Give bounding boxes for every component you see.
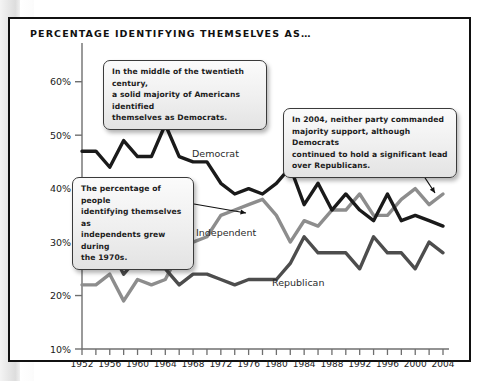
annotation-line: The percentage of people [81, 183, 186, 206]
chart-page: PERCENTAGE IDENTIFYING THEMSELVES AS… 10… [0, 0, 488, 381]
x-axis-tick-label: 1992 [348, 359, 371, 369]
x-axis-tick-label: 2000 [404, 359, 427, 369]
annotation-line: In the middle of the twentieth century, [112, 66, 259, 89]
x-axis-tick-label: 2004 [432, 359, 455, 369]
annotation-line: the 1970s. [81, 252, 186, 264]
y-axis-tick-label: 20% [50, 290, 71, 301]
x-axis-tick-label: 1956 [98, 359, 121, 369]
x-axis-tick-label: 1972 [209, 359, 232, 369]
x-axis-tick-label: 1960 [126, 359, 149, 369]
y-axis-tick-label: 30% [50, 237, 71, 248]
series-label-republican: Republican [272, 277, 324, 288]
leader-independents-arrowhead [240, 210, 246, 215]
annotation-line: majority support, although Democrats [292, 126, 449, 149]
x-axis-tick-label: 1976 [237, 359, 260, 369]
annotation-line: continued to hold a significant lead [292, 149, 449, 161]
leader-2004-arrowhead [430, 187, 435, 193]
x-axis-tick-label: 1984 [293, 359, 316, 369]
annotation-line: independents grew during [81, 229, 186, 252]
annotation-line: a solid majority of Americans identified [112, 89, 259, 112]
x-axis-tick-label: 1980 [265, 359, 288, 369]
y-axis-tick-label: 60% [50, 76, 71, 87]
series-label-independent: Independent [196, 227, 256, 238]
annotation-line: In 2004, neither party commanded [292, 114, 449, 126]
annotation-line: over Republicans. [292, 160, 449, 172]
y-axis-tick-label: 10% [50, 344, 71, 355]
y-axis-tick-label: 50% [50, 130, 71, 141]
annotation-callout-2004: In 2004, neither party commandedmajority… [283, 108, 457, 178]
x-axis-tick-label: 1988 [320, 359, 343, 369]
x-axis-tick-label: 1968 [182, 359, 205, 369]
x-axis-tick-label: 1996 [376, 359, 399, 369]
annotation-line: themselves as Democrats. [112, 112, 259, 124]
x-axis-tick-label: 1964 [154, 359, 177, 369]
annotation-line: identifying themselves as [81, 206, 186, 229]
annotation-callout-democrats: In the middle of the twentieth century,a… [103, 60, 267, 130]
x-axis-tick-label: 1952 [71, 359, 94, 369]
annotation-callout-independents: The percentage of peopleidentifying them… [72, 177, 194, 270]
y-axis-tick-label: 40% [50, 183, 71, 194]
series-label-democrat: Democrat [192, 148, 239, 159]
